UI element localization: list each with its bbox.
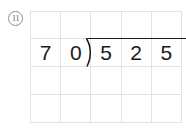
cell-digit: 5: [91, 39, 120, 66]
circled-problem-number: 11: [8, 11, 23, 26]
cell-digit: [31, 95, 60, 122]
grid-row: [30, 11, 182, 39]
grid-cell[interactable]: 0: [61, 39, 91, 67]
division-bar: [87, 38, 186, 39]
worksheet-long-division-problem: 11 7 0 5 2 5: [0, 0, 186, 130]
cell-digit: [152, 95, 181, 122]
cell-digit: [91, 95, 120, 122]
cell-digit: 5: [152, 39, 181, 66]
cell-digit: [152, 67, 181, 94]
cell-digit: [61, 67, 90, 94]
grid-cell[interactable]: [91, 95, 121, 123]
grid-cell[interactable]: 7: [30, 39, 61, 67]
grid-cell[interactable]: [91, 67, 121, 95]
cell-digit: [152, 12, 181, 38]
answer-grid: 7 0 5 2 5: [30, 11, 182, 123]
grid-cell[interactable]: [122, 95, 152, 123]
cell-digit: 2: [122, 39, 151, 66]
grid-row: [30, 67, 182, 95]
cell-digit: [122, 95, 151, 122]
cell-digit: [122, 12, 151, 38]
grid-cell[interactable]: [152, 67, 182, 95]
cell-digit: [122, 67, 151, 94]
cell-digit: [61, 95, 90, 122]
cell-digit: 0: [61, 39, 90, 66]
grid-cell[interactable]: [30, 11, 61, 39]
grid-cell[interactable]: [152, 95, 182, 123]
cell-digit: [31, 67, 60, 94]
grid-cell[interactable]: [152, 11, 182, 39]
grid-cell[interactable]: 2: [122, 39, 152, 67]
grid-row: 7 0 5 2 5: [30, 39, 182, 67]
grid-cell[interactable]: [91, 11, 121, 39]
grid-cell[interactable]: 5: [91, 39, 121, 67]
grid-cell[interactable]: 5: [152, 39, 182, 67]
grid-cell[interactable]: [122, 67, 152, 95]
grid-cell[interactable]: [122, 11, 152, 39]
grid-cell[interactable]: [61, 67, 91, 95]
cell-digit: [91, 67, 120, 94]
cell-digit: [31, 12, 60, 38]
grid-row: [30, 95, 182, 123]
grid-cell[interactable]: [30, 95, 61, 123]
grid-cell[interactable]: [30, 67, 61, 95]
grid-cell[interactable]: [61, 11, 91, 39]
grid-cell[interactable]: [61, 95, 91, 123]
cell-digit: 7: [31, 39, 60, 66]
cell-digit: [91, 12, 120, 38]
cell-digit: [61, 12, 90, 38]
